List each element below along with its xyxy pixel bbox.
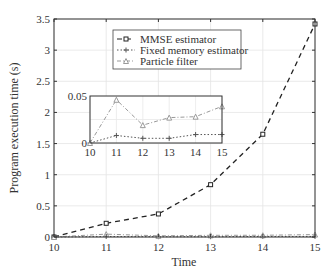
- svg-text:13: 13: [205, 241, 217, 253]
- svg-text:1: 1: [45, 169, 51, 181]
- svg-text:2: 2: [45, 106, 51, 118]
- svg-text:12: 12: [137, 146, 148, 158]
- x-axis-label: Time: [172, 255, 197, 269]
- svg-text:10: 10: [49, 241, 61, 253]
- svg-text:15: 15: [217, 146, 229, 158]
- svg-text:14: 14: [257, 241, 269, 253]
- svg-text:0.5: 0.5: [36, 200, 50, 212]
- svg-text:0: 0: [82, 137, 88, 149]
- svg-text:1.5: 1.5: [36, 138, 50, 150]
- svg-text:15: 15: [310, 241, 322, 253]
- legend: MMSE estimatorFixed memory estimatorPart…: [113, 30, 248, 69]
- svg-text:13: 13: [164, 146, 176, 158]
- svg-text:12: 12: [153, 241, 164, 253]
- execution-time-chart: 00.511.522.533.5 101112131415 Time Progr…: [0, 0, 335, 279]
- svg-text:11: 11: [101, 241, 112, 253]
- svg-text:3.5: 3.5: [36, 13, 50, 25]
- svg-text:2.5: 2.5: [36, 75, 50, 87]
- svg-text:14: 14: [190, 146, 202, 158]
- svg-text:0.05: 0.05: [68, 90, 88, 102]
- y-axis-label: Program execution time (s): [7, 63, 21, 194]
- inset-zoom-plot: 10111213141500.05: [68, 90, 228, 158]
- svg-text:3: 3: [45, 44, 51, 56]
- legend-label: Particle filter: [140, 55, 198, 67]
- svg-text:11: 11: [111, 146, 122, 158]
